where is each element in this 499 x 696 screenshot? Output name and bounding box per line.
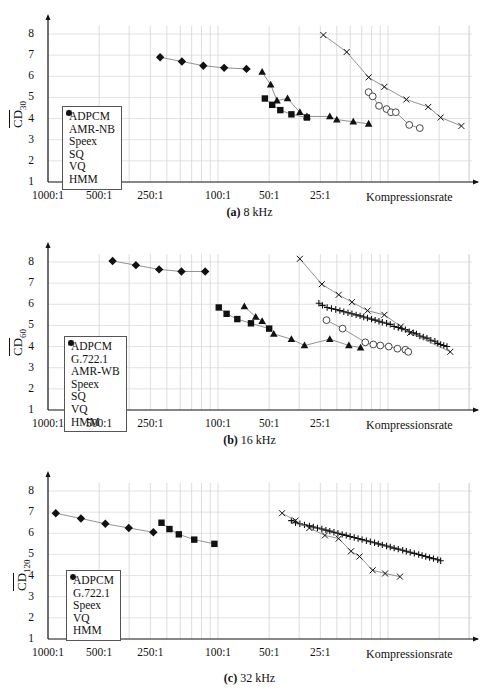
y-tick-label: 1 [20,632,34,644]
diamond-marker-icon [65,337,77,349]
legend-label: SQ [69,148,84,161]
x-tick-label: 100:1 [205,646,231,658]
diamond-marker-icon [67,571,79,583]
y-tick-label: 4 [20,112,34,124]
x-tick-label: 1000:1 [32,417,64,429]
legend-item: Speex [71,378,120,391]
legend-label: SQ [71,390,86,403]
legend-label: Speex [71,378,99,391]
legend-label: AMR-NB [69,123,115,136]
series-hmm [52,509,158,536]
figure-caption: (a) 8 kHz [0,205,499,220]
y-tick-label: 4 [20,569,34,581]
y-tick-label: 5 [20,547,34,559]
legend-item: AMR-NB [69,123,115,136]
y-tick-label: 6 [20,297,34,309]
y-tick-label: 5 [20,318,34,330]
x-tick-label: 25:1 [310,646,330,658]
legend-label: ADPCM [69,110,110,123]
series-hmm [108,257,209,276]
caption-text: 32 kHz [240,671,275,685]
x-tick-label: 100:1 [205,417,231,429]
figure-caption: (c) 32 kHz [0,671,499,686]
x-tick-label: 250:1 [137,417,163,429]
legend-item: AMR-WB [71,365,120,378]
x-tick-label: 50:1 [259,646,279,658]
caption-tag: (c) [224,671,237,685]
y-tick-label: 6 [20,69,34,81]
y-tick-label: 3 [20,590,34,602]
y-tick-label: 2 [20,611,34,623]
series-sq [241,302,365,350]
legend-item: Speex [69,135,115,148]
y-tick-label: 1 [20,175,34,187]
y-tick-label: 3 [20,361,34,373]
x-tick-label: 250:1 [137,646,163,658]
caption-text: 16 kHz [241,433,276,447]
y-tick-label: 3 [20,133,34,145]
legend-item: ADPCM [73,574,114,587]
legend-label: HMM [69,173,98,186]
y-tick-label: 8 [20,27,34,39]
chart-legend: ADPCMG.722.1SpeexVQHMM [66,570,121,641]
chart-panel-16khz: CD60 ADPCMG.722.1AMR-WBSpeexSQVQHMM Komp… [0,228,499,454]
legend-label: VQ [73,612,90,625]
legend-label: AMR-WB [71,365,120,378]
x-tick-label: 50:1 [259,189,279,201]
legend-item: HMM [69,173,115,186]
x-tick-label: 1000:1 [32,646,64,658]
x-tick-label: 500:1 [86,646,112,658]
legend-item: ADPCM [71,340,120,353]
legend-item: ADPCM [69,110,115,123]
y-tick-label: 7 [20,276,34,288]
x-tick-label: 25:1 [310,417,330,429]
y-tick-label: 1 [20,403,34,415]
legend-label: G.722.1 [73,587,110,600]
legend-label: Speex [73,599,101,612]
legend-item: G.722.1 [73,587,114,600]
legend-item: HMM [73,624,114,637]
legend-item: VQ [73,612,114,625]
legend-item: G.722.1 [71,353,120,366]
diamond-marker-icon [63,107,75,119]
legend-item: SQ [71,390,120,403]
x-axis-title: Kompressionsrate [366,190,453,205]
legend-label: G.722.1 [71,353,108,366]
y-tick-label: 2 [20,382,34,394]
legend-item: SQ [69,148,115,161]
series-amr-wb [323,317,412,356]
legend-label: VQ [69,160,86,173]
caption-text: 8 kHz [244,205,273,219]
x-tick-label: 500:1 [86,417,112,429]
legend-label: ADPCM [73,574,114,587]
x-axis-title: Kompressionsrate [366,418,453,433]
figure-caption: (b) 16 kHz [0,433,499,448]
series-g-722-1 [288,517,444,564]
chart-panel-32khz: CD120 ADPCMG.722.1SpeexVQHMM Kompression… [0,457,499,696]
x-tick-label: 1000:1 [32,189,64,201]
legend-item: Speex [73,599,114,612]
x-tick-label: 250:1 [137,189,163,201]
caption-tag: (a) [227,205,241,219]
y-tick-label: 8 [20,255,34,267]
legend-label: ADPCM [71,340,112,353]
x-tick-label: 500:1 [86,189,112,201]
legend-label: Speex [69,135,97,148]
y-tick-label: 8 [20,484,34,496]
y-tick-label: 2 [20,154,34,166]
series-hmm [156,53,251,73]
y-tick-label: 5 [20,90,34,102]
legend-label: HMM [73,624,102,637]
chart-panel-8khz: CD30 ADPCMAMR-NBSpeexSQVQHMM Kompression… [0,0,499,226]
legend-label: VQ [71,403,88,416]
x-tick-label: 25:1 [310,189,330,201]
y-tick-label: 7 [20,48,34,60]
y-tick-label: 7 [20,505,34,517]
x-axis-title: Kompressionsrate [366,647,453,662]
caption-tag: (b) [223,433,238,447]
y-tick-label: 4 [20,340,34,352]
legend-item: VQ [71,403,120,416]
chart-legend: ADPCMAMR-NBSpeexSQVQHMM [62,106,122,190]
series-amr-nb [365,89,423,132]
legend-item: VQ [69,160,115,173]
